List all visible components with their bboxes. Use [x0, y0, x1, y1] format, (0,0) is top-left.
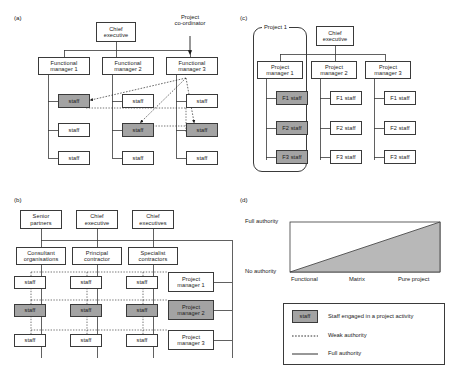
panel-a-staff-c1-r1: staff [58, 94, 90, 108]
panel-b-project-manager-3: Project manager 3 [168, 330, 214, 350]
panel-c-project-group-title: Project 1 [262, 24, 289, 30]
chart-y-top-label: Full authority [245, 218, 278, 224]
panel-c-staff-c1-r1: F1 staff [276, 91, 308, 105]
panel-a-chief-executive: Chief executive [96, 22, 136, 42]
panel-b-project-manager-1: Project manager 1 [168, 272, 214, 292]
panel-c-project-manager-3: Project manager 3 [365, 61, 411, 79]
panel-b-staff-c2-r3: staff [70, 334, 102, 347]
panel-c-staff-c3-r3: F3 staff [384, 150, 416, 164]
panel-b-senior-partners: Senior partners [20, 210, 62, 229]
panel-a-functional-manager-2: Functional manager 2 [102, 57, 154, 75]
chart-x-tick-functional: Functional [291, 276, 318, 282]
panel-c-staff-c2-r2: F2 staff [330, 121, 362, 135]
panel-b-staff-c3-r3: staff [126, 334, 158, 347]
panel-c-project-manager-1: Project manager 1 [257, 61, 303, 79]
panel-b-principal-contractor: Principal contractor [72, 247, 122, 265]
panel-b-staff-c3-r2: staff [126, 304, 158, 317]
legend-staff-swatch: staff [292, 310, 318, 323]
panel-c-staff-c3-r1: F1 staff [384, 91, 416, 105]
panel-a-staff-c2-r2: staff [122, 123, 154, 137]
chart-x-tick-matrix: Matrix [349, 276, 365, 282]
panel-b-specialist-contractors: Specialist contractors [128, 247, 178, 265]
panel-c-staff-c1-r3: F3 staff [276, 150, 308, 164]
panel-b-staff-c2-r1: staff [70, 276, 102, 289]
panel-c-tag: (c) [240, 14, 247, 21]
panel-c-staff-c3-r2: F2 staff [384, 121, 416, 135]
panel-b-staff-c1-r1: staff [14, 276, 46, 289]
panel-b-staff-c1-r3: staff [14, 334, 46, 347]
panel-d-tag: (d) [240, 196, 248, 203]
legend-item-full-authority-text: Full authority [328, 350, 361, 356]
panel-b-staff-c1-r2: staff [14, 304, 46, 317]
panel-a-staff-c3-r2: staff [186, 123, 218, 137]
chart-y-bottom-label: No authority [245, 268, 276, 274]
panel-b-chief-executives: Chief executives [132, 210, 174, 229]
panel-a-project-coordinator-label: Project co-ordinator [160, 14, 220, 27]
panel-a-staff-c1-r2: staff [58, 123, 90, 137]
panel-c-project-manager-2: Project manager 2 [311, 61, 357, 79]
panel-c-staff-c1-r2: F2 staff [276, 121, 308, 135]
panel-a-staff-c3-r3: staff [186, 151, 218, 165]
panel-a-tag: (a) [14, 14, 22, 21]
panel-b-tag: (b) [14, 196, 22, 203]
panel-a-staff-c2-r3: staff [122, 151, 154, 165]
panel-b-chief-executive: Chief executive [76, 210, 118, 229]
panel-c-chief-executive: Chief executive [316, 26, 354, 46]
authority-chart-plot [290, 222, 440, 272]
panel-b-consultant-organisations: Consultant organisations [16, 247, 66, 265]
panel-b-staff-c2-r2: staff [70, 304, 102, 317]
panel-a-staff-c1-r3: staff [58, 151, 90, 165]
legend-item-staff-text: Staff engaged in a project activity [328, 313, 413, 319]
panel-a-functional-manager-1: Functional manager 1 [38, 57, 90, 75]
legend-item-weak-authority-text: Weak authority [328, 332, 367, 338]
figure-root: (a) Chief executive Project co-ordinator… [0, 0, 450, 376]
panel-a-staff-c2-r1: staff [122, 94, 154, 108]
chart-x-tick-pure-project: Pure project [398, 276, 429, 282]
legend-weak-authority-line [292, 332, 318, 340]
panel-c-staff-c2-r3: F3 staff [330, 150, 362, 164]
panel-b-project-manager-2: Project manager 2 [168, 300, 214, 320]
panel-a-functional-manager-3: Functional manager 3 [166, 57, 218, 75]
panel-a-staff-c3-r1: staff [186, 94, 218, 108]
panel-c-staff-c2-r1: F1 staff [330, 91, 362, 105]
legend-full-authority-line [292, 350, 318, 358]
panel-b-staff-c3-r1: staff [126, 276, 158, 289]
